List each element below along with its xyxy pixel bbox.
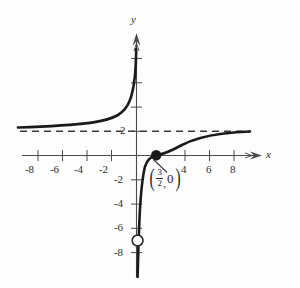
x-tick-label-8: 8 — [230, 163, 235, 175]
open-paren: ( — [150, 168, 155, 189]
fraction-three-halves: 3 2 — [156, 168, 163, 188]
curve-left-branch — [18, 49, 136, 128]
x-tick-label-6: 6 — [206, 163, 211, 175]
x-tick-label-neg4: -4 — [74, 163, 83, 175]
y-tick-label-2: 2 — [120, 124, 125, 136]
y-axis-label: y — [131, 13, 136, 25]
x-tick-label-neg8: -8 — [25, 163, 34, 175]
label-comma: , — [163, 178, 166, 189]
label-y-value: 0 — [167, 172, 174, 185]
fraction-numerator: 3 — [158, 168, 163, 177]
x-tick-label-neg6: -6 — [50, 163, 59, 175]
plot-canvas — [0, 0, 300, 288]
graph-figure: -8 -6 -4 -2 4 6 8 2 -2 -4 -6 -8 y x ( 3 … — [0, 0, 300, 288]
x-tick-label-neg2: -2 — [99, 163, 108, 175]
y-tick-label-neg2: -2 — [114, 173, 123, 185]
fraction-denominator: 2 — [158, 179, 163, 188]
x-axis — [22, 150, 262, 161]
x-intercept-point — [151, 150, 161, 160]
y-tick-label-neg4: -4 — [114, 197, 123, 209]
open-circle-hole — [132, 235, 143, 246]
y-tick-label-neg8: -8 — [114, 246, 123, 258]
y-tick-label-neg6: -6 — [114, 221, 123, 233]
x-intercept-label: ( 3 2 , 0 ) — [148, 168, 182, 189]
x-axis-label: x — [266, 148, 271, 160]
close-paren: ) — [175, 168, 180, 189]
